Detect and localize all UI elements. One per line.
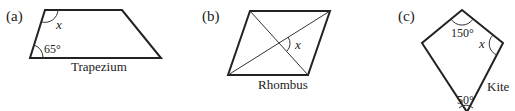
angle-label-x: x <box>478 36 485 51</box>
figure-b-rhombus: (b) x Rhombus <box>202 8 330 92</box>
shape-name-trapezium: Trapezium <box>71 59 127 74</box>
angle-arc-x <box>287 37 290 51</box>
figure-a-trapezium: (a) x 65° Trapezium <box>6 8 161 74</box>
angle-label-x: x <box>55 17 62 32</box>
angle-arc-65 <box>34 45 43 58</box>
shape-name-rhombus: Rhombus <box>258 77 308 92</box>
angle-label-50: 50° <box>457 93 474 107</box>
angle-label-x: x <box>294 37 301 52</box>
part-label-b: (b) <box>202 8 220 25</box>
shape-name-kite: Kite <box>487 79 510 94</box>
quadrilateral-figures: (a) x 65° Trapezium (b) x Rhombus (c) 15… <box>0 0 515 111</box>
part-label-a: (a) <box>6 8 23 25</box>
angle-arc-150 <box>451 19 473 25</box>
angle-label-150: 150° <box>451 26 474 40</box>
part-label-c: (c) <box>398 8 415 25</box>
figure-c-kite: (c) 150° x 50° Kite <box>398 8 510 111</box>
angle-label-65: 65° <box>44 42 61 56</box>
